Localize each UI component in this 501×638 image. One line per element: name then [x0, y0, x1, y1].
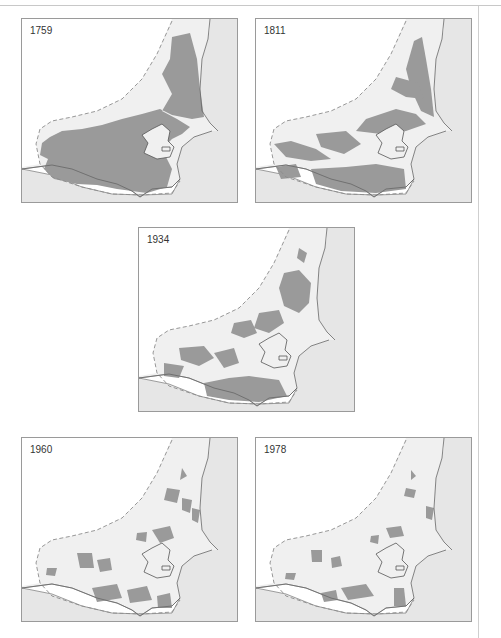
- map-svg: [256, 19, 471, 202]
- forest-patch: [311, 550, 322, 562]
- islet: [279, 356, 287, 360]
- map-svg: [256, 438, 471, 621]
- islet: [396, 147, 404, 151]
- map-panel-1759: 1759: [21, 18, 238, 203]
- islet: [162, 566, 170, 570]
- map-panel-1934: 1934: [138, 227, 355, 412]
- map-panel-1960: 1960: [21, 437, 238, 622]
- year-label: 1960: [30, 444, 52, 455]
- year-label: 1978: [264, 444, 286, 455]
- year-label: 1759: [30, 25, 52, 36]
- forest-patch: [394, 588, 406, 606]
- side-rule: [478, 6, 479, 638]
- year-label: 1934: [147, 234, 169, 245]
- year-label: 1811: [264, 25, 286, 36]
- top-rule: [0, 5, 501, 6]
- islet: [162, 147, 170, 151]
- map-svg: [22, 438, 237, 621]
- map-panel-1978: 1978: [255, 437, 472, 622]
- map-svg: [22, 19, 237, 202]
- islet: [396, 566, 404, 570]
- forest-patch: [77, 553, 94, 568]
- map-svg: [139, 228, 354, 411]
- map-panel-1811: 1811: [255, 18, 472, 203]
- forest-patch: [331, 556, 342, 568]
